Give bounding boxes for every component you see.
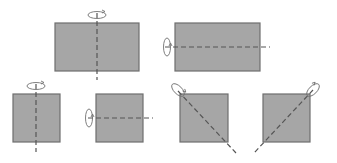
square-vertical-axis	[13, 81, 60, 152]
square-shape	[180, 94, 228, 142]
rectangle-horizontal-axis	[164, 23, 271, 71]
square-diagonal-axis-left	[170, 80, 236, 153]
arrowhead-icon	[102, 10, 105, 13]
arrowhead-icon	[41, 81, 44, 84]
square-horizontal-axis	[86, 94, 154, 142]
rotation-ellipse	[170, 82, 187, 99]
square-shape	[96, 94, 143, 142]
square-shape	[263, 94, 310, 142]
rectangle-vertical-axis	[55, 10, 139, 80]
rotation-axes-diagram	[0, 0, 337, 163]
square-diagonal-axis-right	[254, 80, 321, 153]
